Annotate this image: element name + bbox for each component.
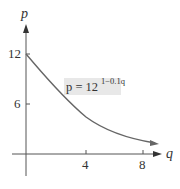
curve-arrow-icon xyxy=(150,140,159,146)
x-tick-label-8: 8 xyxy=(139,157,146,172)
x-axis-label: q xyxy=(166,146,173,161)
chart: p q 12 6 4 8 p = 12 1−0.1q xyxy=(0,0,180,189)
equation-lhs: p = 12 xyxy=(66,80,98,94)
x-tick-label-4: 4 xyxy=(82,157,89,172)
equation-exponent: 1−0.1q xyxy=(101,76,126,86)
y-tick-label-12: 12 xyxy=(8,46,21,61)
y-tick-label-6: 6 xyxy=(14,96,21,111)
y-axis-arrow-icon xyxy=(23,24,29,33)
y-axis-label: p xyxy=(20,6,28,21)
curve-line xyxy=(26,54,155,143)
x-axis-arrow-icon xyxy=(153,151,162,157)
